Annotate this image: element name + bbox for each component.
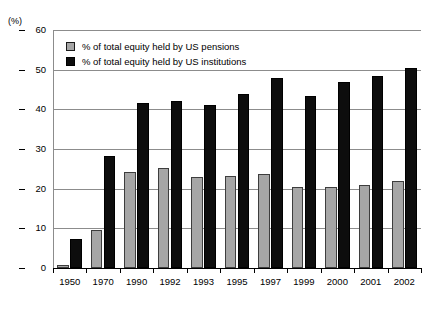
- legend-swatch-pensions: [66, 42, 75, 51]
- y-tick-label-40: 40: [26, 104, 46, 114]
- y-tick-label-50: 50: [26, 65, 46, 75]
- x-axis-line: [53, 268, 421, 269]
- bar-institutions-1997: [271, 78, 283, 268]
- x-tick-mark-1995: [220, 268, 221, 273]
- x-tick-label-1993: 1993: [193, 276, 214, 287]
- x-tick-mark-1993: [187, 268, 188, 273]
- y-tick-mark-60: [19, 30, 25, 31]
- bar-pensions-1970: [91, 230, 103, 268]
- bar-institutions-2002: [405, 68, 417, 268]
- y-tick-label-60: 60: [26, 25, 46, 35]
- x-tick-label-2001: 2001: [360, 276, 381, 287]
- y-tick-mark-40: [19, 109, 25, 110]
- bar-institutions-1970: [104, 156, 116, 268]
- x-tick-mark-2000: [321, 268, 322, 273]
- x-tick-mark-2002: [388, 268, 389, 273]
- y-tick-mark-0: [19, 268, 25, 269]
- x-tick-label-1999: 1999: [293, 276, 314, 287]
- bar-chart: (%) 0102030405060 1950197019901992199319…: [0, 0, 434, 309]
- y-tick-label-20: 20: [26, 184, 46, 194]
- bar-institutions-2001: [372, 76, 384, 268]
- bar-pensions-1992: [158, 168, 170, 268]
- x-tick-label-1997: 1997: [260, 276, 281, 287]
- bar-pensions-1997: [258, 174, 270, 268]
- legend-label-pensions: % of total equity held by US pensions: [82, 41, 239, 52]
- bar-pensions-1999: [292, 187, 304, 268]
- legend-label-institutions: % of total equity held by US institution…: [82, 56, 246, 67]
- bar-institutions-1990: [137, 103, 149, 268]
- bar-pensions-2001: [359, 185, 371, 268]
- bar-pensions-2002: [392, 181, 404, 268]
- bar-pensions-1990: [124, 172, 136, 268]
- bar-institutions-1950: [70, 239, 82, 268]
- bar-pensions-1950: [57, 265, 69, 268]
- y-tick-label-0: 0: [26, 263, 46, 273]
- x-tick-mark-2001: [354, 268, 355, 273]
- bar-institutions-1992: [171, 101, 183, 268]
- y-tick-mark-50: [19, 70, 25, 71]
- x-tick-label-1970: 1970: [93, 276, 114, 287]
- bar-institutions-1995: [238, 94, 250, 268]
- bar-institutions-1993: [204, 105, 216, 268]
- y-axis-line: [53, 30, 54, 268]
- gridline-50: [53, 70, 421, 71]
- legend-item-institutions: % of total equity held by US institution…: [66, 55, 246, 67]
- x-tick-mark-1950: [53, 268, 54, 273]
- x-tick-mark-1970: [86, 268, 87, 273]
- bar-institutions-1999: [305, 96, 317, 268]
- x-tick-label-1990: 1990: [126, 276, 147, 287]
- legend-swatch-institutions: [66, 57, 75, 66]
- x-tick-label-1992: 1992: [160, 276, 181, 287]
- x-tick-mark-1990: [120, 268, 121, 273]
- y-tick-label-30: 30: [26, 144, 46, 154]
- y-tick-label-10: 10: [26, 223, 46, 233]
- x-tick-label-1950: 1950: [59, 276, 80, 287]
- bar-pensions-2000: [325, 187, 337, 268]
- y-tick-mark-10: [19, 228, 25, 229]
- bar-institutions-2000: [338, 82, 350, 268]
- bar-pensions-1993: [191, 177, 203, 268]
- x-tick-mark-end: [421, 268, 422, 273]
- x-tick-label-2000: 2000: [327, 276, 348, 287]
- x-tick-label-2002: 2002: [394, 276, 415, 287]
- x-tick-mark-1999: [287, 268, 288, 273]
- legend: % of total equity held by US pensions% o…: [66, 40, 246, 67]
- y-tick-mark-30: [19, 149, 25, 150]
- bar-pensions-1995: [225, 176, 237, 268]
- x-tick-mark-1992: [153, 268, 154, 273]
- legend-item-pensions: % of total equity held by US pensions: [66, 40, 246, 52]
- x-tick-mark-1997: [254, 268, 255, 273]
- x-tick-label-1995: 1995: [226, 276, 247, 287]
- y-axis-unit-label: (%): [8, 16, 22, 26]
- gridline-60: [53, 30, 421, 31]
- y-tick-mark-20: [19, 189, 25, 190]
